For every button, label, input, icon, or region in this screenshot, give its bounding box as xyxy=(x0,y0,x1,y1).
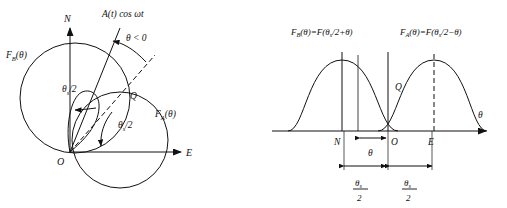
svg-text:θs/2: θs/2 xyxy=(62,84,77,96)
half-squint-lower-arrow xyxy=(101,112,112,146)
curve-fa-pattern xyxy=(378,60,487,131)
half-squint-lower-label: θs/2 xyxy=(118,120,133,132)
left-intersection-label: Q xyxy=(130,91,137,101)
fa-label-arg: (θ) xyxy=(165,109,176,120)
fb-equation-label: FB(θ)=F(θs/2+θ) xyxy=(290,27,353,38)
fb-eq-rhs-tail: /2+θ) xyxy=(331,27,353,37)
tick-label-n: N xyxy=(333,137,341,147)
svg-text:θs/2: θs/2 xyxy=(118,120,133,132)
left-panel: N E O A(t) cos ωt θ < 0 θs/2 xyxy=(5,9,192,188)
fb-eq-lhs-arg: (θ) xyxy=(300,27,310,37)
fa-equation-label: FA(θ)=F(θs/2−θ) xyxy=(399,27,462,38)
half-squint-upper-label: θs/2 xyxy=(62,84,77,96)
svg-text:θs: θs xyxy=(404,178,411,189)
fraction-right-num-sub: s xyxy=(408,182,411,189)
fraction-right: θs 2 xyxy=(402,178,417,203)
fb-label-arg: (θ) xyxy=(16,50,27,61)
right-intersection-label: Q xyxy=(395,82,402,92)
tick-label-e: E xyxy=(427,137,434,147)
svg-text:FB(θ)=F(θs/2+θ): FB(θ)=F(θs/2+θ) xyxy=(290,27,353,38)
fa-eq-lhs-arg: (θ) xyxy=(409,27,419,37)
curve-fb-pattern xyxy=(288,60,398,131)
signal-label: A(t) cos ωt xyxy=(101,9,144,20)
inner-lens-curve xyxy=(68,91,99,152)
right-panel: θ Q N O E θ xyxy=(272,27,487,203)
fraction-right-den: 2 xyxy=(406,193,411,203)
fa-eq-rhs-tail: /2−θ) xyxy=(440,27,462,37)
circle-fa-lobe xyxy=(72,92,168,188)
figure-root: N E O A(t) cos ωt θ < 0 θs/2 xyxy=(0,0,507,208)
theta-offset-label: θ xyxy=(368,148,373,158)
origin-label: O xyxy=(57,156,64,167)
fraction-left-num-sub: s xyxy=(359,182,362,189)
fb-curve-label: FB(θ) xyxy=(5,50,27,62)
half-squint-upper-arrow xyxy=(75,108,96,110)
circle-fb-lobe xyxy=(20,43,130,153)
half-squint-upper-rest: /2 xyxy=(68,84,77,94)
fa-curve-label: FA(θ) xyxy=(154,109,176,121)
fraction-left-den: 2 xyxy=(357,193,362,203)
svg-text:FB(θ): FB(θ) xyxy=(5,50,27,62)
tick-label-o: O xyxy=(391,137,398,147)
svg-text:θs: θs xyxy=(355,178,362,189)
axis-east-label: E xyxy=(185,147,192,158)
theta-negative-arc xyxy=(113,41,146,62)
svg-text:FA(θ)=F(θs/2−θ): FA(θ)=F(θs/2−θ) xyxy=(399,27,462,38)
half-squint-lower-rest: /2 xyxy=(124,120,133,130)
right-axis-theta-label: θ xyxy=(478,110,483,120)
fraction-left: θs 2 xyxy=(353,178,368,203)
theta-negative-label: θ < 0 xyxy=(126,33,147,43)
figure-canvas: N E O A(t) cos ωt θ < 0 θs/2 xyxy=(0,0,507,208)
svg-text:FA(θ): FA(θ) xyxy=(154,109,176,121)
target-dashed-line xyxy=(70,55,155,152)
axis-north-label: N xyxy=(63,13,72,24)
